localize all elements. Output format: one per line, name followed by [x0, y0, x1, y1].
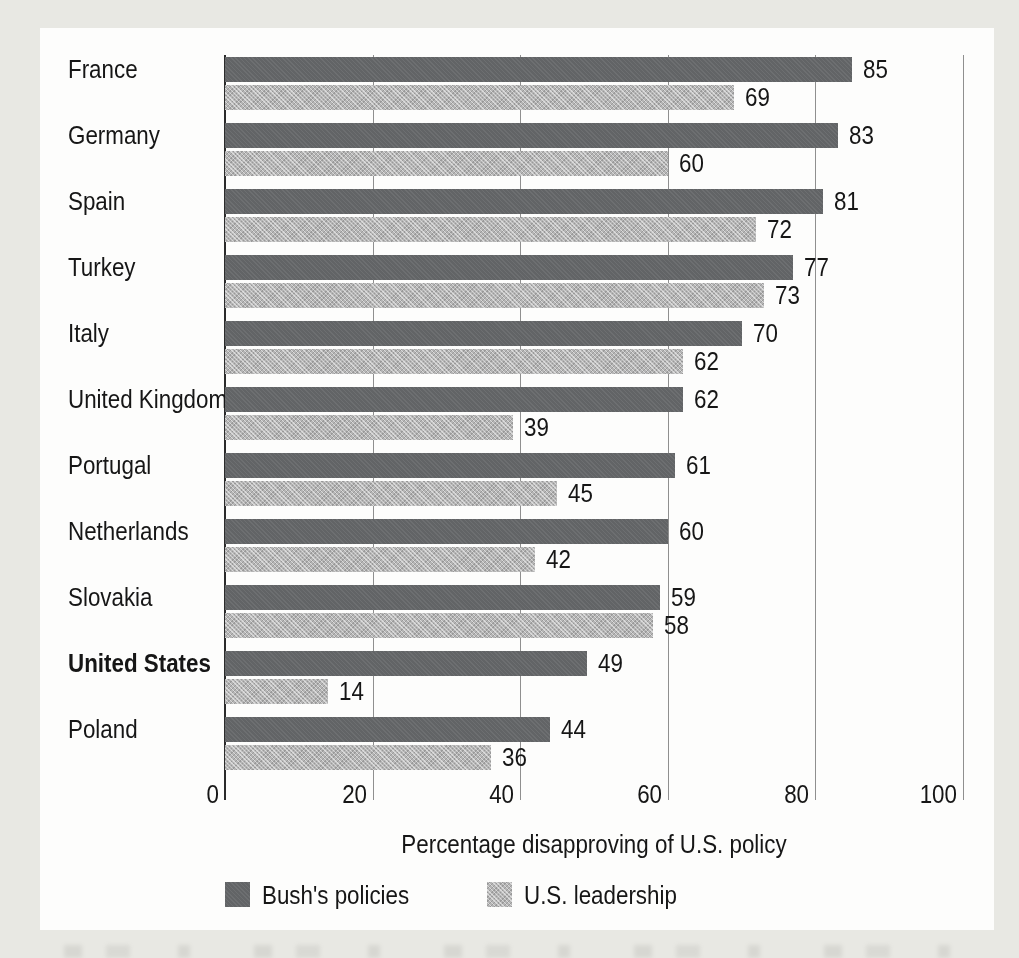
country-label-text: United States — [68, 648, 211, 679]
x-axis-title: Percentage disapproving of U.S. policy — [225, 830, 963, 858]
country-label-slovakia: Slovakia — [68, 585, 222, 610]
bush-policies-bar-germany — [225, 123, 838, 148]
us-leadership-bar-spain — [225, 217, 756, 242]
x-axis-title-text: Percentage disapproving of U.S. policy — [401, 830, 786, 858]
value-label: 14 — [339, 679, 368, 704]
value-label-text: 85 — [863, 57, 888, 82]
value-label-text: 62 — [694, 387, 719, 412]
legend-swatch-us-leadership — [487, 882, 512, 907]
bush-policies-bar-poland — [225, 717, 550, 742]
value-label: 77 — [804, 255, 833, 280]
value-label: 62 — [694, 387, 723, 412]
gridline-100 — [963, 55, 964, 800]
bush-policies-bar-united-states — [225, 651, 587, 676]
value-label: 69 — [745, 85, 774, 110]
value-label: 45 — [568, 481, 597, 506]
x-tick-text: 20 — [314, 780, 367, 808]
value-label-text: 44 — [561, 717, 586, 742]
x-tick-text: 60 — [609, 780, 662, 808]
x-tick-text: 80 — [756, 780, 809, 808]
value-label: 81 — [834, 189, 863, 214]
legend-swatch-bush-policies — [225, 882, 250, 907]
country-label-text: Slovakia — [68, 582, 153, 613]
country-label-text: Italy — [68, 318, 109, 349]
scanned-book-page: { "chart_data": { "type": "bar", "orient… — [0, 0, 1019, 958]
country-label-text: United Kingdom — [68, 384, 227, 415]
country-label-text: Netherlands — [68, 516, 189, 547]
value-label: 59 — [671, 585, 700, 610]
value-label: 44 — [561, 717, 590, 742]
country-label-text: Germany — [68, 120, 160, 151]
country-label-text: Spain — [68, 186, 125, 217]
country-label-poland: Poland — [68, 717, 222, 742]
value-label: 60 — [679, 151, 708, 176]
value-label: 73 — [775, 283, 804, 308]
x-tick-label-80: 80 — [747, 780, 809, 808]
legend-label-bush-policies: Bush's policies — [262, 882, 433, 907]
us-leadership-bar-turkey — [225, 283, 764, 308]
country-label-portugal: Portugal — [68, 453, 222, 478]
scan-bleedthrough-artifact — [30, 945, 990, 958]
country-label-germany: Germany — [68, 123, 222, 148]
value-label-text: 70 — [753, 321, 778, 346]
value-label-text: 45 — [568, 481, 593, 506]
value-label-text: 61 — [686, 453, 711, 478]
us-leadership-bar-netherlands — [225, 547, 535, 572]
value-label-text: 60 — [679, 519, 704, 544]
value-label: 49 — [598, 651, 627, 676]
value-label-text: 49 — [598, 651, 623, 676]
gridline-60 — [668, 55, 669, 800]
x-tick-text: 40 — [461, 780, 514, 808]
country-label-text: Portugal — [68, 450, 151, 481]
value-label-text: 58 — [664, 613, 689, 638]
gridline-80 — [815, 55, 816, 800]
value-label-text: 72 — [767, 217, 792, 242]
value-label: 61 — [686, 453, 715, 478]
country-label-turkey: Turkey — [68, 255, 222, 280]
value-label-text: 36 — [502, 745, 527, 770]
bush-policies-bar-spain — [225, 189, 823, 214]
value-label: 83 — [849, 123, 878, 148]
value-label: 36 — [502, 745, 531, 770]
country-label-united-states: United States — [68, 651, 222, 676]
x-tick-label-60: 60 — [600, 780, 662, 808]
bush-policies-bar-slovakia — [225, 585, 660, 610]
value-label-text: 83 — [849, 123, 874, 148]
country-label-text: Poland — [68, 714, 138, 745]
value-label-text: 73 — [775, 283, 800, 308]
us-leadership-bar-italy — [225, 349, 683, 374]
us-leadership-bar-germany — [225, 151, 668, 176]
bush-policies-bar-italy — [225, 321, 742, 346]
value-label: 72 — [767, 217, 796, 242]
chart-panel: 020406080100France8569Germany8360Spain81… — [40, 28, 994, 930]
x-tick-label-40: 40 — [452, 780, 514, 808]
country-label-text: Turkey — [68, 252, 136, 283]
value-label: 85 — [863, 57, 892, 82]
us-leadership-bar-portugal — [225, 481, 557, 506]
bush-policies-bar-netherlands — [225, 519, 668, 544]
country-label-spain: Spain — [68, 189, 222, 214]
value-label: 70 — [753, 321, 782, 346]
value-label-text: 62 — [694, 349, 719, 374]
value-label: 42 — [546, 547, 575, 572]
value-label-text: 60 — [679, 151, 704, 176]
value-label: 39 — [524, 415, 553, 440]
us-leadership-bar-united-states — [225, 679, 328, 704]
us-leadership-bar-slovakia — [225, 613, 653, 638]
country-label-text: France — [68, 54, 138, 85]
us-leadership-bar-france — [225, 85, 734, 110]
bush-policies-bar-turkey — [225, 255, 793, 280]
value-label-text: 81 — [834, 189, 859, 214]
country-label-united-kingdom: United Kingdom — [68, 387, 222, 412]
country-label-italy: Italy — [68, 321, 222, 346]
x-tick-label-0: 0 — [157, 780, 219, 808]
bush-policies-bar-portugal — [225, 453, 675, 478]
value-label: 58 — [664, 613, 693, 638]
value-label-text: 42 — [546, 547, 571, 572]
country-label-france: France — [68, 57, 222, 82]
value-label-text: 69 — [745, 85, 770, 110]
value-label-text: 59 — [671, 585, 696, 610]
bush-policies-bar-france — [225, 57, 852, 82]
x-tick-label-20: 20 — [305, 780, 367, 808]
x-tick-text: 0 — [166, 780, 219, 808]
